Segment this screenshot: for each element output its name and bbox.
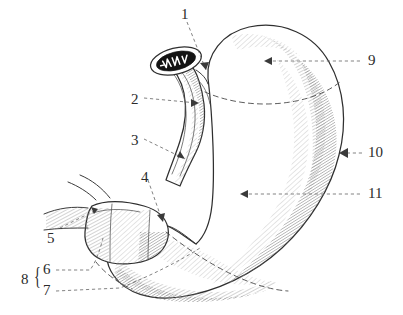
label-8: 8 — [21, 272, 29, 287]
label-2: 2 — [131, 92, 139, 107]
leader-line-10 — [339, 148, 362, 158]
esophagus-tube — [166, 59, 210, 188]
label-10: 10 — [368, 145, 383, 160]
label-6: 6 — [43, 262, 51, 277]
label-1: 1 — [181, 7, 189, 22]
label-9: 9 — [368, 53, 376, 68]
label-5: 5 — [47, 231, 55, 246]
stomach-diagram-figure: 1 2 3 4 5 6 7 8 { 9 10 11 — [0, 0, 403, 315]
label-7: 7 — [43, 283, 51, 298]
label-11: 11 — [368, 186, 382, 201]
stomach-illustration — [0, 0, 403, 315]
label-4: 4 — [141, 170, 149, 185]
brace-glyph: { — [34, 263, 41, 289]
label-3: 3 — [131, 133, 139, 148]
